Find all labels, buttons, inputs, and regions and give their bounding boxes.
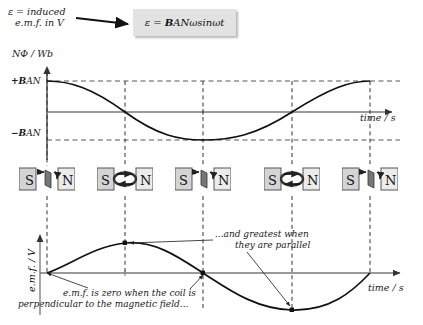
flux-curve — [47, 81, 370, 140]
emf-curve — [47, 243, 370, 310]
emf-y-axis-arrowhead — [37, 234, 44, 242]
rotation-arrow-right-4 — [377, 172, 380, 179]
max-annotation-leader-1 — [130, 240, 213, 243]
zero-annotation-leader-2 — [190, 275, 203, 289]
magnet-graphic-4: S N — [342, 167, 398, 191]
rotation-arrow-right-0 — [54, 172, 57, 179]
definition-pointer-arrow — [76, 18, 128, 24]
magnet-south-label-1: S — [101, 173, 110, 188]
coil-edge-on-2 — [201, 170, 207, 188]
coil-edge-on-0 — [45, 170, 51, 188]
magnet-north-label-3: N — [307, 173, 318, 188]
zero-annotation-leader-1 — [47, 273, 88, 288]
magnet-north-label-4: N — [385, 173, 396, 188]
magnet-assembly-0: S N — [19, 167, 75, 191]
magnet-south-label-2: S — [179, 173, 188, 188]
emf-marker-peak — [123, 241, 127, 245]
magnet-south-label-4: S — [346, 173, 355, 188]
magnet-graphic-1: S N — [97, 167, 153, 191]
rotation-arrow-left-0 — [39, 172, 44, 174]
max-annotation-leader-2 — [247, 252, 290, 306]
emf-marker-trough — [290, 308, 294, 312]
magnet-north-label-2: N — [218, 173, 229, 188]
magnet-assembly-4: S N — [342, 167, 398, 191]
rotation-arrow-right-2 — [210, 172, 213, 179]
rotation-arrow-left-2 — [194, 172, 199, 174]
rotation-arrow-left-4 — [361, 172, 366, 174]
emf-marker-zero — [201, 271, 205, 275]
magnet-south-label-0: S — [25, 173, 34, 188]
coil-edge-on-4 — [368, 170, 374, 188]
figure-canvas: ε = induced e.m.f. in V ε = BANωsinωt NΦ… — [0, 0, 423, 325]
magnet-assembly-3: S N — [264, 167, 320, 191]
magnet-assembly-1: S N — [97, 167, 153, 191]
diagram-vectors — [0, 0, 423, 325]
magnet-graphic-0: S N — [19, 167, 75, 191]
flux-vertical-guides — [47, 72, 370, 166]
magnet-lower-guides — [47, 196, 370, 310]
magnet-assembly-2: S N — [175, 167, 231, 191]
magnet-graphic-2: S N — [175, 167, 231, 191]
magnet-graphic-3: S N — [264, 167, 320, 191]
magnet-south-label-3: S — [268, 173, 277, 188]
magnet-north-label-0: N — [62, 173, 73, 188]
magnet-north-label-1: N — [140, 173, 151, 188]
